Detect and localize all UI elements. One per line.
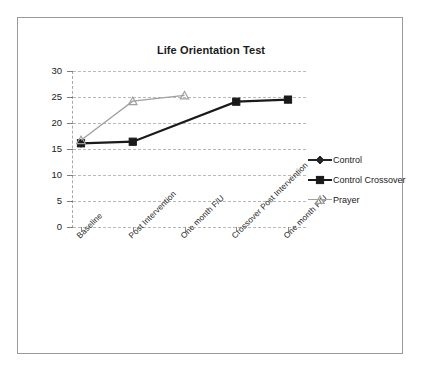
y-tick-mark-30 xyxy=(67,71,73,72)
y-tick-mark-5 xyxy=(67,201,73,202)
y-tick-label-20: 20 xyxy=(32,117,62,128)
y-tick-label-0: 0 xyxy=(32,221,62,232)
y-tick-label-10: 10 xyxy=(32,169,62,180)
legend-item-prayer[interactable]: Prayer xyxy=(308,190,403,210)
gridline-y-10 xyxy=(73,175,306,176)
chart-legend: ControlControl CrossoverPrayer xyxy=(308,150,403,210)
legend-marker-square-icon xyxy=(308,174,332,186)
y-tick-label-5: 5 xyxy=(32,195,62,206)
gridline-y-15 xyxy=(73,149,306,150)
y-tick-mark-25 xyxy=(67,97,73,98)
chart-frame: Life Orientation Test 051015202530 Basel… xyxy=(17,17,403,354)
y-tick-label-25: 25 xyxy=(32,91,62,102)
legend-item-control-crossover[interactable]: Control Crossover xyxy=(308,170,403,190)
legend-label: Control xyxy=(332,155,362,165)
gridline-y-30 xyxy=(73,71,306,72)
legend-label: Prayer xyxy=(332,195,360,205)
chart-screenshot: Life Orientation Test 051015202530 Basel… xyxy=(0,0,422,380)
y-tick-mark-0 xyxy=(67,227,73,228)
chart-title: Life Orientation Test xyxy=(18,44,404,56)
legend-marker-triangle-icon xyxy=(308,194,332,206)
y-tick-mark-15 xyxy=(67,149,73,150)
y-tick-mark-10 xyxy=(67,175,73,176)
y-tick-mark-20 xyxy=(67,123,73,124)
gridline-y-25 xyxy=(73,97,306,98)
gridline-y-20 xyxy=(73,123,306,124)
legend-marker-diamond-icon xyxy=(308,154,332,166)
legend-label: Control Crossover xyxy=(332,175,406,185)
legend-item-control[interactable]: Control xyxy=(308,150,403,170)
y-tick-label-15: 15 xyxy=(32,143,62,154)
y-tick-label-30: 30 xyxy=(32,65,62,76)
